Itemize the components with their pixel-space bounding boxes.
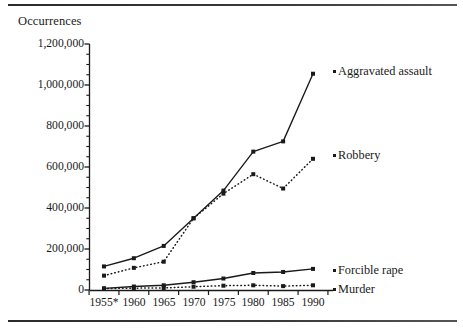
data-point-marker bbox=[162, 286, 166, 290]
series-label-dot bbox=[333, 154, 336, 157]
data-point-marker bbox=[281, 284, 285, 288]
data-point-marker bbox=[132, 266, 136, 270]
y-axis-tick-label: 200,000 bbox=[14, 243, 84, 255]
data-point-marker bbox=[251, 172, 255, 176]
data-point-marker bbox=[221, 284, 225, 288]
data-point-marker bbox=[102, 264, 106, 268]
data-point-marker bbox=[251, 283, 255, 287]
series-line bbox=[104, 74, 313, 267]
data-point-marker bbox=[311, 72, 315, 76]
data-point-marker bbox=[162, 244, 166, 248]
data-point-marker bbox=[221, 277, 225, 281]
data-point-marker bbox=[221, 192, 225, 196]
data-point-marker bbox=[251, 150, 255, 154]
data-series-group bbox=[102, 70, 336, 291]
y-axis-tick-label: 400,000 bbox=[14, 202, 84, 214]
y-axis-tick-label: 600,000 bbox=[14, 161, 84, 173]
data-point-marker bbox=[102, 287, 106, 291]
data-point-marker bbox=[281, 187, 285, 191]
y-axis-tick-label: 1,200,000 bbox=[14, 38, 84, 50]
data-point-marker bbox=[281, 270, 285, 274]
data-point-marker bbox=[192, 285, 196, 289]
series-label: Aggravated assault bbox=[338, 65, 432, 78]
data-point-marker bbox=[311, 157, 315, 161]
data-point-marker bbox=[102, 274, 106, 278]
data-point-marker bbox=[311, 267, 315, 271]
y-axis-major-ticks bbox=[85, 44, 90, 290]
y-axis-tick-label: 0 bbox=[14, 284, 84, 296]
y-axis-tick-label: 1,000,000 bbox=[14, 79, 84, 91]
data-point-marker bbox=[311, 283, 315, 287]
data-point-marker bbox=[192, 216, 196, 220]
series-label-dot bbox=[333, 70, 336, 73]
crime-occurrences-line-chart: Occurrences 1,200,0001,000,000800,000600… bbox=[0, 0, 463, 333]
series-label: Forcible rape bbox=[338, 264, 403, 277]
axes bbox=[85, 44, 334, 295]
y-axis-tick-label: 800,000 bbox=[14, 120, 84, 132]
series-label: Robbery bbox=[338, 149, 380, 162]
data-point-marker bbox=[132, 256, 136, 260]
series-label: Murder bbox=[338, 283, 375, 296]
data-point-marker bbox=[251, 271, 255, 275]
data-point-marker bbox=[132, 286, 136, 290]
x-axis-tick-label: 1990 bbox=[293, 297, 333, 309]
data-point-marker bbox=[192, 280, 196, 284]
series-murder bbox=[102, 283, 315, 290]
data-point-marker bbox=[281, 139, 285, 143]
series-label-dot bbox=[333, 288, 336, 291]
series-label-dot bbox=[333, 269, 336, 272]
data-point-marker bbox=[162, 260, 166, 264]
series-aggravated-assault bbox=[102, 72, 315, 269]
